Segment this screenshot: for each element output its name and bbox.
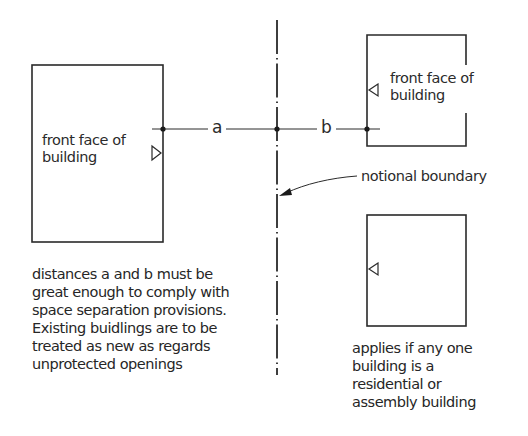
left-note-line: treated as new as regards (32, 337, 229, 355)
front-face-marker-icon (369, 263, 378, 275)
left-building-label-line2: building (42, 149, 125, 166)
left-note-line: great enough to comply with (32, 283, 229, 301)
front-face-marker-icon (152, 146, 161, 160)
left-building-label: front face of building (42, 132, 125, 166)
notional-boundary-label: notional boundary (361, 168, 487, 185)
right-upper-building-label-line1: front face of (390, 70, 473, 87)
right-note-line: building is a (352, 357, 476, 375)
front-face-marker-icon (369, 84, 378, 96)
right-note-line: applies if any one (352, 339, 476, 357)
left-note-line: space separation provisions. (32, 301, 229, 319)
right-upper-building-label-line2: building (390, 87, 473, 104)
dimension-line (152, 126, 380, 131)
left-note-line: unprotected openings (32, 355, 229, 373)
left-note: distances a and b must be great enough t… (32, 265, 229, 373)
right-note-line: residential or (352, 375, 476, 393)
dimension-a-label: a (208, 118, 226, 136)
left-note-line: Existing buidlings are to be (32, 319, 229, 337)
left-building-label-line1: front face of (42, 132, 125, 149)
dimension-point-left (160, 126, 165, 131)
boundary-leader-arrow (279, 176, 357, 196)
right-note-line: assembly building (352, 393, 476, 411)
dimension-point-right (364, 126, 369, 131)
dimension-point-boundary (274, 126, 279, 131)
right-upper-building-label: front face of building (390, 70, 473, 104)
left-note-line: distances a and b must be (32, 265, 229, 283)
dimension-b-label: b (317, 118, 336, 136)
arrowhead-icon (279, 188, 292, 196)
right-note: applies if any one building is a residen… (352, 339, 476, 411)
right-lower-building (367, 215, 466, 326)
